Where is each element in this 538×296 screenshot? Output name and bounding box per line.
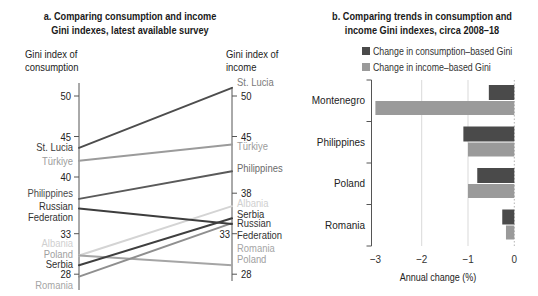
right-tick-label: 28 (241, 269, 252, 281)
right-label-poland: Poland (237, 254, 266, 266)
left-axis-label: consumption (25, 62, 78, 74)
slope-line-russian-federation (79, 209, 232, 224)
category-label-philippines: Philippines (317, 136, 365, 147)
right-label-russian-federation: Federation (237, 230, 282, 242)
x-tick-label: −3 (370, 254, 381, 266)
panel-b-bar-chart: b. Comparing trends in consumption andin… (312, 10, 517, 283)
slope-line-serbia (79, 218, 232, 265)
slope-line-philippines (79, 171, 232, 199)
right-label-romania: Romania (237, 243, 275, 255)
right-label-st-lucia: St. Lucia (237, 77, 274, 89)
bar-consumption-romania (502, 210, 514, 225)
x-tick-label: −1 (462, 254, 473, 266)
right-label-serbia: Serbia (237, 209, 265, 221)
left-label-russian-federation: Federation (28, 212, 73, 224)
panel-a-title-line: a. Comparing consumption and income (44, 10, 217, 22)
right-label-turkiye: Türkiye (237, 141, 268, 153)
x-axis-label: Annual change (%) (400, 271, 477, 283)
right-tick-label: 50 (241, 91, 252, 103)
slope-line-turkiye (79, 145, 232, 161)
panel-a-title-line: Gini indexes, latest available survey (51, 24, 209, 36)
category-label-montenegro: Montenegro (312, 95, 366, 106)
right-label-albania: Albania (237, 198, 269, 210)
category-label-poland: Poland (334, 178, 365, 189)
right-tick-label: 33 (220, 228, 231, 240)
right-axis-label: income (226, 62, 257, 74)
panel-b-title-line: b. Comparing trends in consumption and (332, 10, 512, 22)
slope-line-st-lucia (79, 88, 232, 148)
bar-income-poland (468, 184, 514, 198)
bar-consumption-philippines (463, 127, 514, 142)
left-axis-label: Gini index of (25, 49, 78, 61)
bar-income-montenegro (375, 101, 514, 115)
bar-income-romania (506, 226, 514, 240)
legend-label-income: Change in income–based Gini (373, 61, 491, 73)
panel-b-title-line: income Gini indexes, circa 2008–18 (345, 24, 500, 36)
category-label-romania: Romania (325, 219, 365, 230)
left-label-romania: Romania (35, 280, 73, 292)
x-tick-label: 0 (512, 254, 518, 266)
x-tick-label: −2 (416, 254, 427, 266)
right-axis-label: Gini index of (226, 49, 279, 61)
slope-line-poland (79, 256, 232, 266)
legend-label-consumption: Change in consumption–based Gini (373, 45, 512, 57)
left-label-russian-federation: Russian (39, 201, 73, 213)
left-label-serbia: Serbia (46, 259, 74, 271)
left-label-st-lucia: St. Lucia (36, 142, 73, 154)
bar-income-philippines (468, 143, 514, 157)
figure: a. Comparing consumption and incomeGini … (0, 0, 538, 296)
legend-swatch-consumption (362, 47, 370, 55)
right-label-philippines: Philippines (237, 163, 283, 175)
left-label-philippines: Philippines (27, 188, 73, 200)
bar-consumption-montenegro (489, 85, 514, 100)
left-tick-label: 50 (61, 91, 72, 103)
panel-a-slope-chart: a. Comparing consumption and incomeGini … (25, 10, 283, 291)
left-label-albania: Albania (42, 238, 74, 250)
left-tick-label: 40 (61, 172, 72, 184)
legend-swatch-income (362, 63, 370, 71)
bar-consumption-poland (477, 168, 514, 183)
left-label-turkiye: Türkiye (42, 156, 73, 168)
